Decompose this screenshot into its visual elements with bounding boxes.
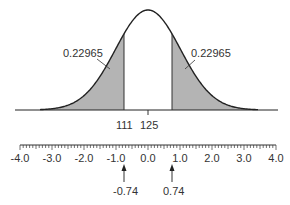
right-tail-area-label: 0.22965	[191, 47, 231, 59]
z-marker-right-label: 0.74	[163, 185, 184, 197]
z-marker-right: 0.74	[163, 164, 184, 197]
raw-score-mean-label: 125	[140, 119, 158, 131]
left-tail-area-label: 0.22965	[63, 47, 103, 59]
z-tick-label: -2.0	[75, 152, 94, 164]
z-tick-label: 4.0	[268, 152, 283, 164]
left-tail-shaded-area	[40, 34, 124, 110]
z-score-axis: -4.0-3.0-2.0-1.00.01.02.03.04.0	[11, 145, 284, 164]
z-tick-label: 3.0	[236, 152, 251, 164]
z-marker-left-label: -0.74	[113, 185, 138, 197]
raw-score-lower-label: 111	[116, 119, 133, 131]
z-tick-label: 1.0	[172, 152, 187, 164]
z-tick-label: 2.0	[204, 152, 219, 164]
z-tick-label: -3.0	[43, 152, 62, 164]
normal-curve	[40, 10, 258, 110]
normal-curve-diagram: 0.22965 0.22965 111 125 -4.0-3.0-2.0-1.0…	[0, 0, 290, 205]
z-marker-left: -0.74	[113, 164, 138, 197]
z-tick-label: -4.0	[11, 152, 30, 164]
z-tick-label: -1.0	[107, 152, 126, 164]
z-tick-label: 0.0	[140, 152, 155, 164]
